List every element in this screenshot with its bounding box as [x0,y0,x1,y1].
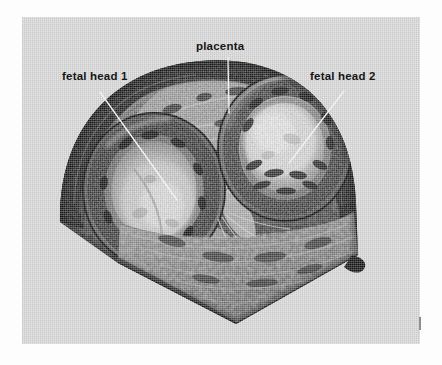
plate-corner-tick [419,317,421,330]
volume-body [22,17,420,344]
label-fetal-head-2: fetal head 2 [310,71,376,83]
label-placenta: placenta [196,41,244,53]
ultrasound-volume-render [22,17,420,344]
ultrasound-figure: placenta fetal head 1 fetal head 2 [0,0,442,365]
photographic-plate [22,17,420,344]
label-fetal-head-1: fetal head 1 [62,71,128,83]
